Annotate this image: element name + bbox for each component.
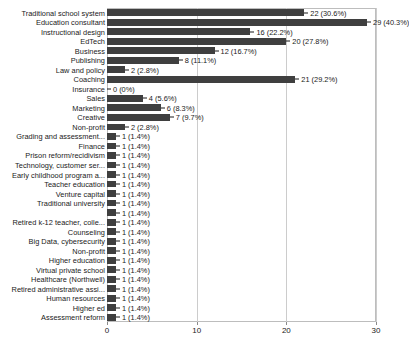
- bar-value-label: 7 (9.7%): [174, 113, 204, 122]
- category-label: Assessment reform: [41, 313, 105, 322]
- bar[interactable]: [107, 47, 215, 54]
- category-label: Early childhood program a...: [12, 170, 105, 179]
- bar[interactable]: [107, 200, 116, 207]
- bar-row[interactable]: Human resources1 (1.4%): [0, 293, 408, 303]
- bar-row[interactable]: Marketing6 (8.3%): [0, 103, 408, 113]
- category-label: Sales: [86, 94, 105, 103]
- bar-value-label: 1 (1.4%): [120, 141, 150, 150]
- bar-row[interactable]: Teacher education1 (1.4%): [0, 179, 408, 189]
- category-label: Technology, customer ser...: [15, 160, 105, 169]
- bar[interactable]: [107, 95, 143, 102]
- category-label: Human resources: [46, 294, 105, 303]
- bar-row[interactable]: Business12 (16.7%): [0, 46, 408, 56]
- category-label: Teacher education: [44, 180, 105, 189]
- bar-row[interactable]: Non-profit2 (2.8%): [0, 122, 408, 132]
- category-label: Retired administrative assi...: [12, 284, 105, 293]
- x-tick-mark-30: [376, 322, 377, 325]
- bar-row[interactable]: Virtual private school1 (1.4%): [0, 265, 408, 275]
- bar[interactable]: [107, 143, 116, 150]
- bar-row[interactable]: Creative7 (9.7%): [0, 113, 408, 123]
- bar-value-label: 12 (16.7%): [219, 46, 257, 55]
- bar-row[interactable]: Higher education1 (1.4%): [0, 255, 408, 265]
- bar[interactable]: [107, 285, 116, 292]
- bar-row[interactable]: EdTech20 (27.8%): [0, 37, 408, 47]
- bar-row[interactable]: Education consultant29 (40.3%): [0, 18, 408, 28]
- bar[interactable]: [107, 152, 116, 159]
- bar-value-label: 1 (1.4%): [120, 208, 150, 217]
- category-label: Non-profit: [72, 122, 105, 131]
- category-label: Grading and assessment...: [16, 132, 105, 141]
- bar[interactable]: [107, 190, 116, 197]
- bar-row[interactable]: Publishing8 (11.1%): [0, 56, 408, 66]
- bar-row[interactable]: Early childhood program a...1 (1.4%): [0, 170, 408, 180]
- category-label: Traditional school system: [21, 8, 105, 17]
- bar-value-label: 0 (0%): [111, 84, 135, 93]
- category-label: Counseling: [68, 227, 105, 236]
- bar-row[interactable]: Finance1 (1.4%): [0, 141, 408, 151]
- bar[interactable]: [107, 266, 116, 273]
- bar-row[interactable]: Instructional design16 (22.2%): [0, 27, 408, 37]
- bar-row[interactable]: Healthcare (Northwell)1 (1.4%): [0, 274, 408, 284]
- bar-value-label: 8 (11.1%): [183, 56, 217, 65]
- bar-row[interactable]: Prison reform/recidivism1 (1.4%): [0, 151, 408, 161]
- bar[interactable]: [107, 295, 116, 302]
- bar-row[interactable]: Retired administrative assi...1 (1.4%): [0, 284, 408, 294]
- bar[interactable]: [107, 257, 116, 264]
- bar-row[interactable]: Law and policy2 (2.8%): [0, 65, 408, 75]
- category-label: Non-profit: [72, 246, 105, 255]
- bar-row[interactable]: Coaching21 (29.2%): [0, 75, 408, 85]
- bar-row[interactable]: Big Data, cybersecurity1 (1.4%): [0, 236, 408, 246]
- bar[interactable]: [107, 76, 295, 83]
- bar-value-label: 1 (1.4%): [120, 132, 150, 141]
- bar[interactable]: [107, 114, 170, 121]
- bar[interactable]: [107, 28, 250, 35]
- bar[interactable]: [107, 181, 116, 188]
- bar[interactable]: [107, 228, 116, 235]
- bar[interactable]: [107, 171, 116, 178]
- bar[interactable]: [107, 124, 125, 131]
- bar[interactable]: [107, 162, 116, 169]
- bar[interactable]: [107, 219, 116, 226]
- bar-value-label: 1 (1.4%): [120, 275, 150, 284]
- bar-row[interactable]: Venture capital1 (1.4%): [0, 189, 408, 199]
- bar-row[interactable]: Sales4 (5.6%): [0, 94, 408, 104]
- category-label: Law and policy: [56, 65, 105, 74]
- x-tick-label: 0: [105, 326, 109, 336]
- bar[interactable]: [107, 276, 116, 283]
- x-tick-mark-10: [197, 322, 198, 325]
- bar-row[interactable]: Grading and assessment...1 (1.4%): [0, 132, 408, 142]
- bar-row[interactable]: Higher ed1 (1.4%): [0, 303, 408, 313]
- bar[interactable]: [107, 209, 116, 216]
- x-tick-label: 30: [372, 326, 381, 336]
- bar[interactable]: [107, 66, 125, 73]
- bar-row[interactable]: Assessment reform1 (1.4%): [0, 312, 408, 322]
- category-label: Publishing: [71, 56, 105, 65]
- bar-value-label: 1 (1.4%): [120, 170, 150, 179]
- bar-row[interactable]: Traditional university1 (1.4%): [0, 198, 408, 208]
- bar-row[interactable]: Counseling1 (1.4%): [0, 227, 408, 237]
- bar-value-label: 1 (1.4%): [120, 246, 150, 255]
- bar[interactable]: [107, 104, 161, 111]
- bar-row[interactable]: 1 (1.4%): [0, 208, 408, 218]
- bar[interactable]: [107, 19, 367, 26]
- bar[interactable]: [107, 133, 116, 140]
- bar-row[interactable]: Non-profit1 (1.4%): [0, 246, 408, 256]
- bar-row[interactable]: Insurance0 (0%): [0, 84, 408, 94]
- bar[interactable]: [107, 247, 116, 254]
- bar-value-label: 1 (1.4%): [120, 303, 150, 312]
- bar[interactable]: [107, 238, 116, 245]
- category-label: Venture capital: [56, 189, 105, 198]
- bar-value-label: 1 (1.4%): [120, 180, 150, 189]
- bar-value-label: 21 (29.2%): [299, 75, 337, 84]
- bar-row[interactable]: Retired k-12 teacher, colle...1 (1.4%): [0, 217, 408, 227]
- bar[interactable]: [107, 304, 116, 311]
- bar[interactable]: [107, 314, 116, 321]
- bar-value-label: 1 (1.4%): [120, 294, 150, 303]
- category-label: Healthcare (Northwell): [31, 275, 105, 284]
- bar[interactable]: [107, 38, 286, 45]
- bar-value-label: 22 (30.6%): [308, 8, 346, 17]
- bar[interactable]: [107, 57, 179, 64]
- bar-row[interactable]: Technology, customer ser...1 (1.4%): [0, 160, 408, 170]
- bar-row[interactable]: Traditional school system22 (30.6%): [0, 8, 408, 18]
- bar[interactable]: [107, 9, 304, 16]
